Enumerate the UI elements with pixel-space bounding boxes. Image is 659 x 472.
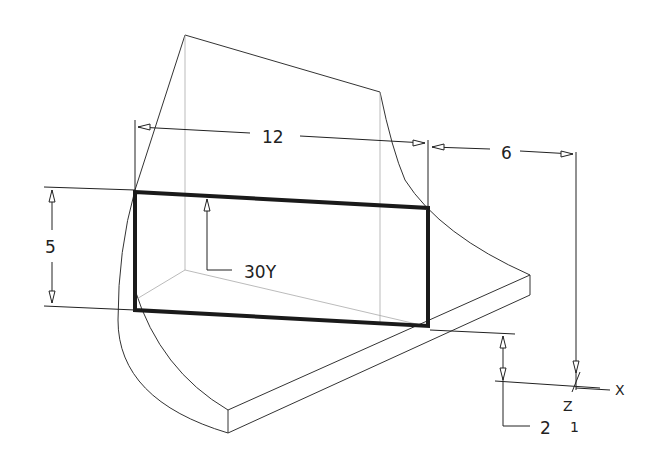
dimension-height-label: 5 xyxy=(45,237,56,257)
part-geometry xyxy=(118,35,530,433)
axis-z-label: Z xyxy=(563,398,573,414)
coordinate-system: X Z 1 xyxy=(563,361,625,435)
dimension-offset-x-label: 6 xyxy=(501,143,512,163)
cad-drawing: 12 6 5 30Y 2 X Z xyxy=(0,0,659,472)
axis-one-label: 1 xyxy=(570,419,579,435)
dimension-offset-y-label: 2 xyxy=(540,418,551,438)
dimension-width-label: 12 xyxy=(262,127,284,147)
profile-rectangle[interactable] xyxy=(135,192,428,326)
axis-x-label: X xyxy=(615,382,625,398)
rotation-label: 30Y xyxy=(244,262,277,282)
rotation-leader[interactable]: 30Y xyxy=(204,199,277,282)
dimension-height[interactable]: 5 xyxy=(44,187,135,310)
